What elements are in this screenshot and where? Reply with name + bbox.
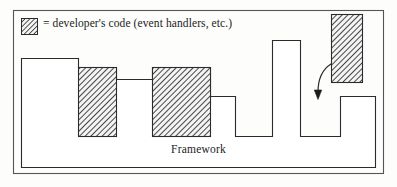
callback-arrow-curve bbox=[318, 64, 331, 92]
framework-label: Framework bbox=[0, 143, 397, 155]
developer-box-middle bbox=[153, 68, 211, 137]
developer-box-right bbox=[332, 15, 363, 83]
callback-arrow-head bbox=[314, 90, 321, 100]
developer-box-left bbox=[79, 68, 117, 137]
legend-hatched-swatch bbox=[22, 19, 38, 35]
legend-label: = developer's code (event handlers, etc.… bbox=[43, 17, 232, 29]
framework-inversion-diagram: = developer's code (event handlers, etc.… bbox=[0, 0, 397, 187]
